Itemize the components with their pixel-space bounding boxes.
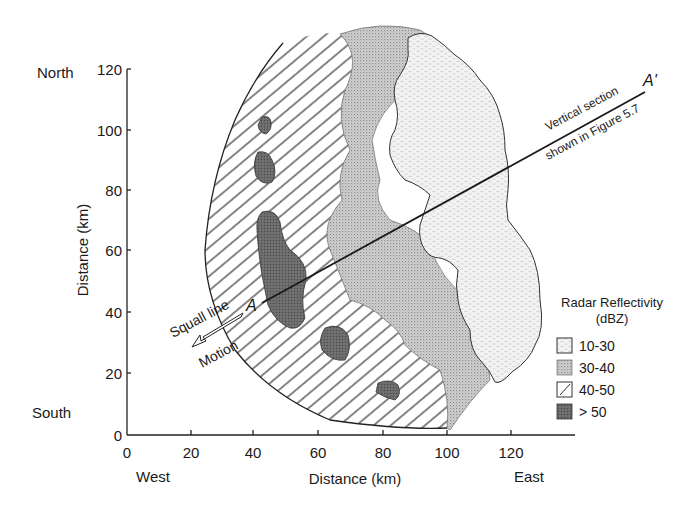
y-axis-title: Distance (km) (74, 204, 91, 297)
legend-label: 30-40 (579, 360, 615, 376)
compass-east: East (514, 468, 545, 485)
legend-label: 40-50 (579, 382, 615, 398)
y-tick: 100 (97, 122, 122, 139)
legend-title-line2: (dBZ) (596, 311, 629, 326)
y-tick: 80 (105, 182, 122, 199)
legend-label: > 50 (579, 404, 607, 420)
legend-swatch-gt50 (557, 404, 572, 419)
x-tick: 120 (498, 444, 523, 461)
y-tick: 120 (97, 61, 122, 78)
x-tick: 40 (245, 444, 262, 461)
legend-swatch-10-30 (557, 338, 572, 353)
section-start-label: A (245, 297, 257, 314)
legend: Radar Reflectivity (dBZ) 10-30 30-40 40-… (557, 295, 663, 420)
compass-west: West (136, 468, 171, 485)
x-tick: 60 (310, 444, 327, 461)
compass-north: North (37, 64, 74, 81)
y-tick: 40 (105, 304, 122, 321)
compass-south: South (32, 404, 71, 421)
y-tick: 60 (105, 242, 122, 259)
x-axis-title: Distance (km) (309, 470, 402, 487)
x-tick: 100 (434, 444, 459, 461)
x-tick: 20 (183, 444, 200, 461)
radar-figure: 120 100 80 60 40 20 0 0 20 40 60 80 100 … (0, 0, 687, 510)
legend-swatch-30-40 (557, 360, 572, 375)
legend-label: 10-30 (579, 338, 615, 354)
section-end-label: A' (642, 72, 658, 89)
legend-title-line1: Radar Reflectivity (561, 295, 663, 310)
x-tick: 0 (123, 444, 131, 461)
y-tick: 0 (114, 427, 122, 444)
y-tick: 20 (105, 365, 122, 382)
x-tick: 80 (375, 444, 392, 461)
